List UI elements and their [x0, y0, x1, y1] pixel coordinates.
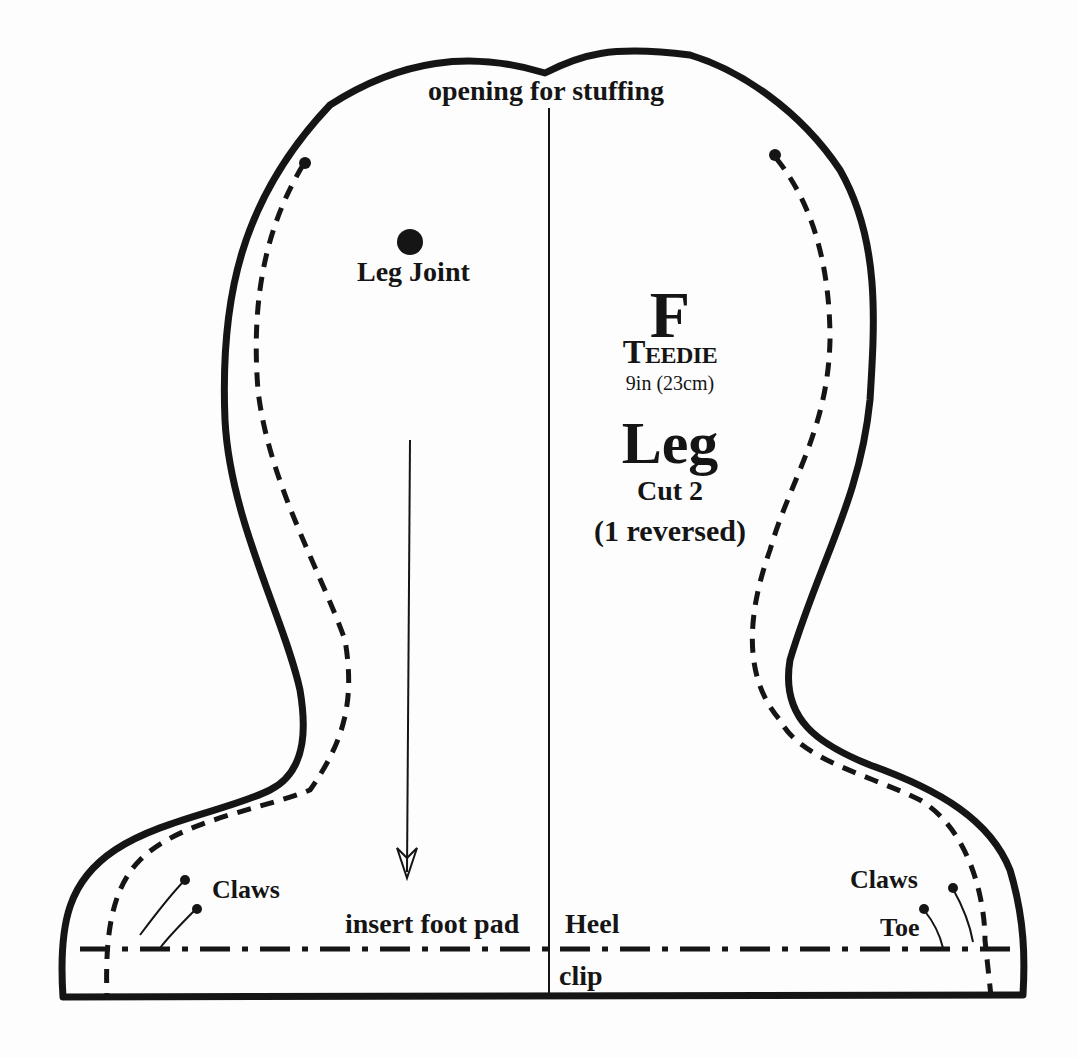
- claw-markers-left: [140, 875, 202, 948]
- clip-label: clip: [559, 962, 603, 990]
- seam-line-left: [107, 165, 349, 997]
- leg-joint-label: Leg Joint: [357, 258, 470, 286]
- piece-name: Leg: [560, 413, 780, 473]
- bear-size: 9in (23cm): [560, 373, 780, 393]
- piece-info: F Teedie 9in (23cm) Leg Cut 2 (1 reverse…: [560, 0, 780, 560]
- toe-label: Toe: [880, 915, 920, 941]
- cut-note: (1 reversed): [560, 516, 780, 546]
- cutting-outline: [62, 51, 1024, 997]
- claw-markers-right: [919, 883, 973, 948]
- cut-instruction: Cut 2: [560, 477, 780, 505]
- leg-joint-marker-icon: [397, 229, 423, 255]
- pattern-drawing: [0, 0, 1077, 1058]
- arrow-down-icon: [397, 440, 417, 878]
- insert-foot-pad-label: insert foot pad: [345, 910, 519, 938]
- heel-label: Heel: [565, 910, 619, 938]
- seam-start-dot-left: [299, 157, 311, 169]
- claws-label-left: Claws: [212, 877, 280, 903]
- bear-name: Teedie: [560, 335, 780, 369]
- claws-label-right: Claws: [850, 867, 918, 893]
